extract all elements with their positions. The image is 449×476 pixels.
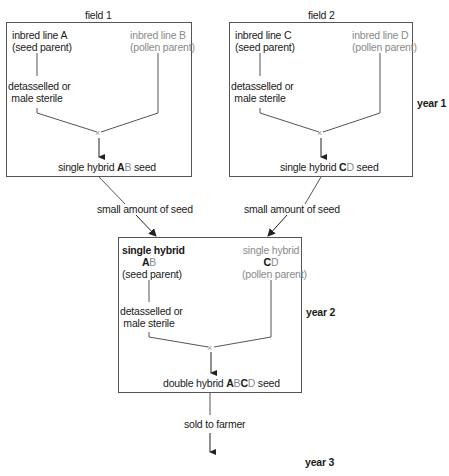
transfer-label-right: small amount of seed (244, 203, 340, 215)
field-1-treatment: detasselled or male sterile (8, 80, 66, 104)
year2-pollen-parent: single hybrid CD (pollen parent) (242, 244, 300, 280)
year2-seed-parent: single hybrid AB (seed parent) (122, 244, 176, 280)
field-2-seed-parent: inbred line C (seed parent) (235, 29, 287, 53)
field-1-title: field 1 (85, 9, 112, 21)
field-2-title: field 2 (308, 9, 335, 21)
year-1-label: year 1 (417, 97, 446, 109)
sold-to-farmer-label: sold to farmer (184, 418, 245, 430)
diagram-lines (0, 0, 449, 476)
year-3-label: year 3 (305, 456, 334, 468)
field-2-pollen-parent: inbred line D (pollen parent) (352, 29, 408, 53)
field-1-product: single hybrid AB seed (58, 161, 156, 173)
field-1-pollen-parent: inbred line B (pollen parent) (130, 29, 186, 53)
year2-treatment: detasselled or male sterile (120, 305, 178, 329)
hybrid-seed-diagram: field 1 field 2 inbred line A (seed pare… (0, 0, 449, 476)
year2-cross-symbol: × (207, 342, 212, 354)
field-2-product: single hybrid CD seed (280, 161, 379, 173)
field-1-cross-symbol: × (95, 127, 100, 139)
transfer-label-left: small amount of seed (97, 203, 193, 215)
field-2-cross-symbol: × (317, 127, 322, 139)
year-2-label: year 2 (306, 306, 335, 318)
year2-product: double hybrid ABCD seed (163, 377, 280, 389)
field-2-treatment: detasselled or male sterile (231, 80, 289, 104)
field-1-seed-parent: inbred line A (seed parent) (12, 29, 64, 53)
